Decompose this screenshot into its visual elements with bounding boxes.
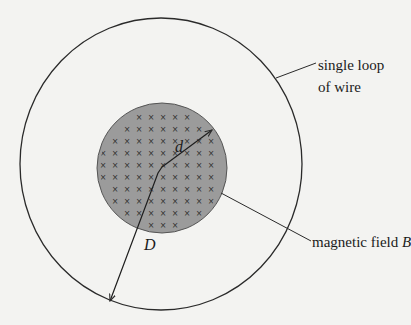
field-x-mark: × xyxy=(196,125,203,134)
field-x-mark: × xyxy=(196,185,203,194)
field-x-mark: × xyxy=(172,161,179,170)
field-x-mark: × xyxy=(172,185,179,194)
field-x-mark: × xyxy=(172,209,179,218)
field-x-mark: × xyxy=(184,197,191,206)
field-x-mark: × xyxy=(112,137,119,146)
loop-label-line1: single loop xyxy=(318,54,384,76)
field-x-mark: × xyxy=(172,125,179,134)
field-x-mark: × xyxy=(112,185,119,194)
field-x-mark: × xyxy=(124,149,131,158)
loop-label: single loop of wire xyxy=(318,54,384,98)
field-x-mark: × xyxy=(208,185,215,194)
field-x-mark: × xyxy=(136,173,143,182)
field-x-mark: × xyxy=(148,113,155,122)
field-label: magnetic field B xyxy=(312,231,411,253)
field-x-mark: × xyxy=(148,125,155,134)
field-symbol: B xyxy=(402,234,411,250)
field-x-mark: × xyxy=(100,161,107,170)
field-x-mark: × xyxy=(136,113,143,122)
field-x-mark: × xyxy=(124,197,131,206)
field-x-mark: × xyxy=(184,125,191,134)
field-x-mark: × xyxy=(172,113,179,122)
field-x-mark: × xyxy=(208,161,215,170)
field-x-mark: × xyxy=(124,125,131,134)
field-x-mark: × xyxy=(184,161,191,170)
field-label-text: magnetic field xyxy=(312,234,402,250)
field-x-mark: × xyxy=(136,125,143,134)
field-x-mark: × xyxy=(124,173,131,182)
field-x-mark: × xyxy=(112,197,119,206)
field-x-mark: × xyxy=(196,197,203,206)
loop-label-line2: of wire xyxy=(318,76,384,98)
field-x-mark: × xyxy=(184,209,191,218)
field-x-mark: × xyxy=(196,149,203,158)
field-x-mark: × xyxy=(160,173,167,182)
inner-radius-label: d xyxy=(175,136,183,158)
field-x-mark: × xyxy=(136,161,143,170)
field-x-mark: × xyxy=(124,137,131,146)
field-x-mark: × xyxy=(148,173,155,182)
outer-radius-label: D xyxy=(144,234,156,256)
field-x-mark: × xyxy=(208,137,215,146)
field-x-mark: × xyxy=(136,149,143,158)
field-x-mark: × xyxy=(184,185,191,194)
field-x-mark: × xyxy=(196,173,203,182)
field-x-mark: × xyxy=(112,161,119,170)
field-x-mark: × xyxy=(172,173,179,182)
field-x-mark: × xyxy=(208,149,215,158)
diagram-canvas: ××××××××××××××××××××××××××××××××××××××××… xyxy=(0,0,411,325)
field-x-mark: × xyxy=(184,173,191,182)
field-x-mark: × xyxy=(160,137,167,146)
field-x-mark: × xyxy=(136,185,143,194)
field-x-mark: × xyxy=(136,197,143,206)
field-x-mark: × xyxy=(196,161,203,170)
field-x-mark: × xyxy=(124,185,131,194)
field-x-mark: × xyxy=(160,197,167,206)
field-x-mark: × xyxy=(148,209,155,218)
field-x-mark: × xyxy=(148,149,155,158)
field-x-mark: × xyxy=(160,149,167,158)
field-x-mark: × xyxy=(160,221,167,230)
field-x-mark: × xyxy=(112,173,119,182)
field-x-mark: × xyxy=(172,197,179,206)
field-x-mark: × xyxy=(112,149,119,158)
field-x-mark: × xyxy=(160,113,167,122)
field-x-mark: × xyxy=(160,209,167,218)
field-x-mark: × xyxy=(124,209,131,218)
loop-leader-line xyxy=(276,63,316,78)
field-x-mark: × xyxy=(160,185,167,194)
diagram-svg: ××××××××××××××××××××××××××××××××××××××××… xyxy=(0,0,411,325)
field-x-mark: × xyxy=(208,173,215,182)
field-x-mark: × xyxy=(184,113,191,122)
field-x-mark: × xyxy=(124,161,131,170)
field-x-mark: × xyxy=(160,125,167,134)
field-x-mark: × xyxy=(148,137,155,146)
field-x-mark: × xyxy=(136,137,143,146)
field-x-mark: × xyxy=(184,137,191,146)
field-x-mark: × xyxy=(148,161,155,170)
